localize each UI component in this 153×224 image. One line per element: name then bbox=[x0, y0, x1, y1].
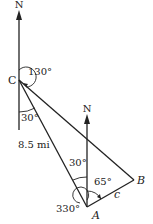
angle-label-30-a: 30° bbox=[69, 157, 87, 168]
point-label-c: C bbox=[8, 74, 16, 87]
angle-label-330: 330° bbox=[56, 203, 80, 214]
north-label-c: N bbox=[15, 0, 24, 10]
north-label-a: N bbox=[83, 103, 92, 114]
point-label-b: B bbox=[136, 174, 145, 187]
angle-label-30-c: 30° bbox=[21, 112, 39, 123]
side-label-ab: c bbox=[114, 188, 120, 201]
side-label-ca: 8.5 mi bbox=[18, 139, 50, 150]
bearing-triangle-diagram: N N C A B 130° 30° 8.5 mi 30° 65° c 330° bbox=[0, 0, 153, 224]
point-label-a: A bbox=[91, 209, 100, 222]
angle-arc-30-a bbox=[73, 177, 87, 180]
angle-label-65: 65° bbox=[94, 176, 112, 187]
angle-label-130: 130° bbox=[28, 66, 52, 77]
